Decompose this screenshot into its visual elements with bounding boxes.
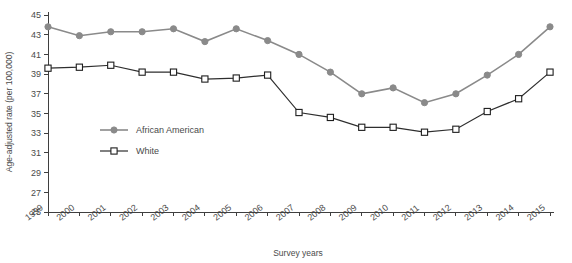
data-point-white[interactable] bbox=[139, 69, 145, 75]
y-axis-title: Age-adjusted rate (per 100,000) bbox=[4, 52, 14, 173]
data-point-white[interactable] bbox=[108, 62, 114, 68]
data-point-african-american[interactable] bbox=[76, 33, 82, 39]
data-point-african-american[interactable] bbox=[421, 100, 427, 106]
chart-container: 2527293133353739414345 19992000200120022… bbox=[0, 0, 572, 263]
data-point-african-american[interactable] bbox=[484, 72, 490, 78]
y-axis-ticks: 2527293133353739414345 bbox=[31, 10, 48, 217]
data-point-african-american[interactable] bbox=[327, 69, 333, 75]
data-point-white[interactable] bbox=[547, 69, 553, 75]
data-point-african-american[interactable] bbox=[547, 24, 553, 30]
data-point-african-american[interactable] bbox=[233, 26, 239, 32]
data-point-african-american[interactable] bbox=[45, 24, 51, 30]
y-tick-label: 33 bbox=[31, 128, 41, 138]
line-chart: 2527293133353739414345 19992000200120022… bbox=[0, 0, 572, 263]
data-point-white[interactable] bbox=[45, 65, 51, 71]
data-point-white[interactable] bbox=[233, 75, 239, 81]
legend-label-0: African American bbox=[136, 125, 204, 135]
data-point-white[interactable] bbox=[327, 114, 333, 120]
legend-label-1: White bbox=[136, 146, 159, 156]
data-point-white[interactable] bbox=[265, 72, 271, 78]
x-tick-label: 1999 bbox=[23, 202, 45, 222]
data-point-white[interactable] bbox=[453, 126, 459, 132]
data-point-african-american[interactable] bbox=[359, 91, 365, 97]
y-tick-label: 41 bbox=[31, 50, 41, 60]
data-point-white[interactable] bbox=[296, 109, 302, 115]
y-tick-label: 27 bbox=[31, 188, 41, 198]
data-point-white[interactable] bbox=[390, 124, 396, 130]
y-tick-label: 29 bbox=[31, 168, 41, 178]
data-point-white[interactable] bbox=[359, 124, 365, 130]
series-line-african-american bbox=[48, 27, 550, 103]
y-tick-label: 35 bbox=[31, 109, 41, 119]
data-point-white[interactable] bbox=[421, 129, 427, 135]
data-point-african-american[interactable] bbox=[139, 29, 145, 35]
y-tick-label: 39 bbox=[31, 69, 41, 79]
y-tick-label: 43 bbox=[31, 30, 41, 40]
data-point-white[interactable] bbox=[76, 64, 82, 70]
data-point-african-american[interactable] bbox=[516, 51, 522, 57]
data-point-white[interactable] bbox=[484, 108, 490, 114]
data-point-white[interactable] bbox=[170, 69, 176, 75]
y-tick-label: 45 bbox=[31, 10, 41, 20]
data-point-african-american[interactable] bbox=[202, 38, 208, 44]
data-point-white[interactable] bbox=[516, 96, 522, 102]
data-point-african-american[interactable] bbox=[170, 26, 176, 32]
y-tick-label: 31 bbox=[31, 148, 41, 158]
legend-marker-african-american bbox=[111, 127, 117, 133]
y-tick-label: 37 bbox=[31, 89, 41, 99]
data-point-african-american[interactable] bbox=[296, 51, 302, 57]
data-point-african-american[interactable] bbox=[265, 38, 271, 44]
chart-legend: African AmericanWhite bbox=[100, 125, 204, 156]
series-layer bbox=[45, 24, 553, 136]
x-axis-title: Survey years bbox=[273, 248, 323, 258]
data-point-african-american[interactable] bbox=[108, 29, 114, 35]
data-point-african-american[interactable] bbox=[390, 85, 396, 91]
x-tick-label: 2011 bbox=[400, 203, 421, 223]
legend-marker-white bbox=[111, 148, 117, 154]
data-point-african-american[interactable] bbox=[453, 91, 459, 97]
data-point-white[interactable] bbox=[202, 76, 208, 82]
series-line-white bbox=[48, 65, 550, 132]
